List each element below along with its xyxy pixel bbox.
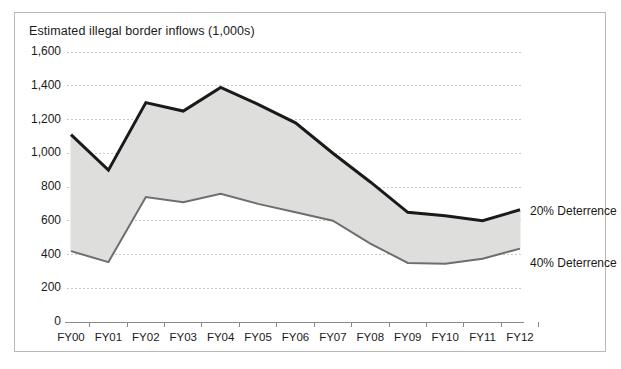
y-axis-tick-label: 1,600 (7, 44, 61, 58)
series-annotation-40-percent: 40% Deterrence (530, 256, 617, 270)
plot-area (0, 0, 621, 369)
series-annotation-20-percent: 20% Deterrence (530, 204, 617, 218)
y-axis-tick-label: 1,200 (7, 112, 61, 126)
x-axis-tick-label: FY12 (498, 331, 542, 343)
y-axis-tick-label: 200 (7, 280, 61, 294)
y-axis-tick-label: 400 (7, 247, 61, 261)
y-axis-tick-label: 1,000 (7, 145, 61, 159)
y-axis-tick-label: 1,400 (7, 78, 61, 92)
y-axis-tick-label: 600 (7, 213, 61, 227)
axes (65, 322, 539, 327)
y-axis-tick-label: 0 (7, 314, 61, 328)
y-axis-tick-label: 800 (7, 179, 61, 193)
chart-screenshot: Estimated illegal border inflows (1,000s… (0, 0, 621, 369)
